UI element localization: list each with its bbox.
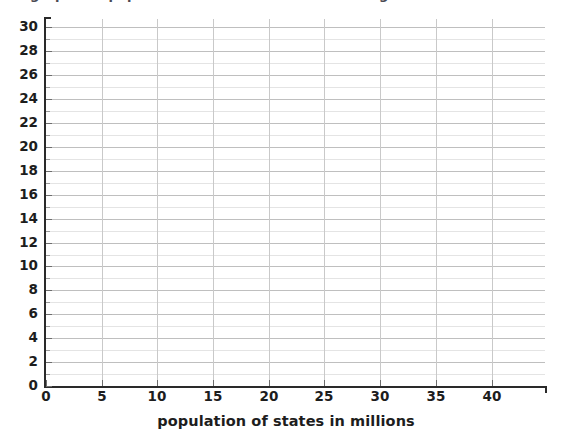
x-axis-tick <box>324 380 325 386</box>
gridline-horizontal <box>46 374 545 375</box>
y-axis-minor-tick <box>46 111 50 112</box>
x-axis-right-cap <box>545 386 547 393</box>
gridline-horizontal <box>46 314 545 315</box>
gridline-horizontal <box>46 147 545 148</box>
gridline-horizontal <box>46 231 545 232</box>
gridline-horizontal <box>46 135 545 136</box>
y-axis-tick <box>46 195 52 196</box>
gridline-horizontal <box>46 63 545 64</box>
gridline-horizontal <box>46 195 545 196</box>
x-axis-title: population of states in millions <box>0 413 572 429</box>
x-axis-tick-label: 5 <box>82 390 122 404</box>
y-axis-tick <box>46 243 52 244</box>
x-axis-tick <box>46 380 47 386</box>
y-axis-tick <box>46 75 52 76</box>
gridline-horizontal <box>46 159 545 160</box>
y-axis-minor-tick <box>46 159 50 160</box>
x-axis-tick <box>269 380 270 386</box>
x-axis-tick-label: 15 <box>193 390 233 404</box>
gridline-horizontal <box>46 326 545 327</box>
gridline-horizontal <box>46 183 545 184</box>
y-axis-tick-label: 14 <box>0 212 38 226</box>
gridline-horizontal <box>46 123 545 124</box>
y-axis-minor-tick <box>46 302 50 303</box>
y-axis-minor-tick <box>46 231 50 232</box>
y-axis-minor-tick <box>46 135 50 136</box>
y-axis-tick <box>46 314 52 315</box>
y-axis-tick-label: 22 <box>0 116 38 130</box>
y-axis-minor-tick <box>46 183 50 184</box>
gridline-horizontal <box>46 27 545 28</box>
x-axis-tick-label: 30 <box>360 390 400 404</box>
x-axis-tick-label: 20 <box>249 390 289 404</box>
y-axis-minor-tick <box>46 350 50 351</box>
x-axis-tick <box>436 380 437 386</box>
gridline-horizontal <box>46 243 545 244</box>
gridline-horizontal <box>46 39 545 40</box>
plot-area <box>46 19 545 386</box>
gridline-vertical <box>269 19 270 386</box>
gridline-horizontal <box>46 290 545 291</box>
y-axis-line <box>44 17 46 388</box>
y-axis-tick <box>46 171 52 172</box>
x-axis-tick <box>492 380 493 386</box>
gridline-vertical <box>436 19 437 386</box>
y-axis-tick <box>46 123 52 124</box>
y-axis-tick-label: 16 <box>0 188 38 202</box>
y-axis-tick <box>46 338 52 339</box>
y-axis-tick <box>46 27 52 28</box>
y-axis-tick <box>46 147 52 148</box>
y-axis-tick-label: 26 <box>0 68 38 82</box>
y-axis-tick-label: 10 <box>0 259 38 273</box>
gridline-vertical <box>102 19 103 386</box>
gridline-horizontal <box>46 87 545 88</box>
gridline-horizontal <box>46 51 545 52</box>
gridline-horizontal <box>46 207 545 208</box>
x-axis-tick <box>380 380 381 386</box>
gridline-vertical <box>492 19 493 386</box>
gridline-horizontal <box>46 266 545 267</box>
y-axis-tick <box>46 266 52 267</box>
gridline-horizontal <box>46 278 545 279</box>
y-axis-minor-tick <box>46 374 50 375</box>
y-axis-minor-tick <box>46 63 50 64</box>
y-axis-minor-tick <box>46 87 50 88</box>
y-axis-minor-tick <box>46 278 50 279</box>
y-axis-tick-label: 4 <box>0 331 38 345</box>
gridline-horizontal <box>46 302 545 303</box>
y-axis-tick-label: 8 <box>0 283 38 297</box>
x-axis-tick-label: 25 <box>304 390 344 404</box>
y-axis-top-cap <box>44 17 51 19</box>
gridline-horizontal <box>46 171 545 172</box>
gridline-horizontal <box>46 75 545 76</box>
gridline-horizontal <box>46 99 545 100</box>
x-axis-tick-label: 40 <box>472 390 512 404</box>
gridline-horizontal <box>46 350 545 351</box>
x-axis-tick-label: 35 <box>416 390 456 404</box>
gridline-horizontal <box>46 255 545 256</box>
y-axis-tick-label: 6 <box>0 307 38 321</box>
x-axis-tick <box>213 380 214 386</box>
y-axis-tick-label: 24 <box>0 92 38 106</box>
x-axis-line <box>44 386 547 388</box>
y-axis-tick-label: 2 <box>0 355 38 369</box>
x-axis-tick <box>102 380 103 386</box>
y-axis-tick <box>46 362 52 363</box>
y-axis-tick <box>46 386 52 387</box>
y-axis-tick <box>46 51 52 52</box>
x-axis-tick-label: 10 <box>137 390 177 404</box>
y-axis-tick-label: 12 <box>0 236 38 250</box>
gridline-vertical <box>380 19 381 386</box>
y-axis-tick <box>46 99 52 100</box>
blank-coordinate-grid-chart: 0246810121416182022242628300510152025303… <box>0 0 572 442</box>
y-axis-tick <box>46 219 52 220</box>
y-axis-minor-tick <box>46 326 50 327</box>
y-axis-tick-label: 28 <box>0 44 38 58</box>
gridline-horizontal <box>46 219 545 220</box>
y-axis-minor-tick <box>46 255 50 256</box>
gridline-vertical <box>324 19 325 386</box>
x-axis-tick-label: 0 <box>26 390 66 404</box>
gridline-vertical <box>213 19 214 386</box>
gridline-vertical <box>157 19 158 386</box>
gridline-horizontal <box>46 111 545 112</box>
